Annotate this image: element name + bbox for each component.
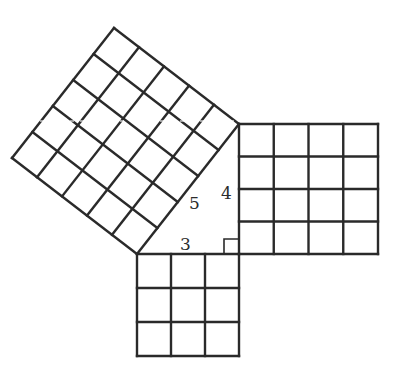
grid-line	[87, 86, 189, 216]
grid-line	[12, 158, 137, 254]
pythagorean-diagram: 3 4 5	[0, 0, 398, 381]
grid-line	[32, 132, 157, 228]
grid-line	[94, 54, 219, 150]
grid-line	[62, 66, 164, 196]
grid-line	[114, 28, 239, 124]
grid-line	[112, 105, 214, 235]
grid-line	[12, 28, 114, 158]
label-leg-3: 3	[180, 234, 191, 254]
square-on-leg-3	[137, 254, 239, 356]
label-leg-4: 4	[221, 183, 232, 203]
diagram-canvas: 3 4 5	[0, 0, 398, 381]
square-on-leg-4	[239, 124, 378, 254]
label-hypotenuse-5: 5	[189, 193, 200, 213]
grid-line	[73, 80, 198, 176]
grid-line	[37, 47, 139, 177]
square-on-hypotenuse	[12, 28, 239, 254]
right-angle-marker	[224, 239, 239, 254]
